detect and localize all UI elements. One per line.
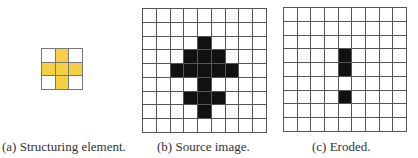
- empty-cell: [393, 118, 406, 131]
- empty-cell: [212, 37, 225, 50]
- filled-cell: [184, 64, 197, 77]
- empty-cell: [311, 36, 324, 49]
- filled-cell: [56, 76, 69, 89]
- empty-cell: [226, 23, 239, 36]
- empty-cell: [352, 63, 365, 76]
- empty-cell: [393, 104, 406, 117]
- empty-cell: [298, 22, 311, 35]
- empty-cell: [298, 91, 311, 104]
- empty-cell: [253, 78, 266, 91]
- empty-cell: [393, 77, 406, 90]
- empty-cell: [157, 9, 170, 22]
- empty-cell: [325, 49, 338, 62]
- empty-cell: [253, 9, 266, 22]
- filled-cell: [226, 64, 239, 77]
- empty-cell: [143, 50, 156, 63]
- empty-cell: [157, 23, 170, 36]
- empty-cell: [284, 77, 297, 90]
- empty-cell: [366, 77, 379, 90]
- empty-cell: [253, 105, 266, 118]
- empty-cell: [380, 22, 393, 35]
- empty-cell: [393, 22, 406, 35]
- empty-cell: [352, 49, 365, 62]
- empty-cell: [298, 8, 311, 21]
- empty-cell: [284, 22, 297, 35]
- empty-cell: [253, 50, 266, 63]
- empty-cell: [380, 36, 393, 49]
- empty-cell: [298, 104, 311, 117]
- empty-cell: [253, 23, 266, 36]
- empty-cell: [284, 91, 297, 104]
- empty-cell: [171, 37, 184, 50]
- empty-cell: [239, 64, 252, 77]
- empty-cell: [212, 119, 225, 132]
- empty-cell: [339, 22, 352, 35]
- empty-cell: [253, 92, 266, 105]
- empty-cell: [143, 9, 156, 22]
- empty-cell: [284, 36, 297, 49]
- empty-cell: [239, 50, 252, 63]
- empty-cell: [184, 23, 197, 36]
- empty-cell: [366, 104, 379, 117]
- filled-cell: [339, 49, 352, 62]
- filled-cell: [198, 92, 211, 105]
- empty-cell: [366, 118, 379, 131]
- empty-cell: [284, 49, 297, 62]
- empty-cell: [366, 91, 379, 104]
- filled-cell: [198, 78, 211, 91]
- empty-cell: [325, 118, 338, 131]
- empty-cell: [239, 105, 252, 118]
- empty-cell: [325, 104, 338, 117]
- empty-cell: [253, 37, 266, 50]
- empty-cell: [226, 50, 239, 63]
- empty-cell: [380, 8, 393, 21]
- empty-cell: [226, 37, 239, 50]
- empty-cell: [212, 9, 225, 22]
- empty-cell: [380, 118, 393, 131]
- filled-cell: [42, 63, 55, 76]
- empty-cell: [380, 63, 393, 76]
- empty-cell: [212, 23, 225, 36]
- empty-cell: [198, 119, 211, 132]
- empty-cell: [157, 78, 170, 91]
- empty-cell: [143, 64, 156, 77]
- empty-cell: [325, 22, 338, 35]
- empty-cell: [226, 78, 239, 91]
- empty-cell: [380, 77, 393, 90]
- filled-cell: [339, 63, 352, 76]
- empty-cell: [143, 37, 156, 50]
- empty-cell: [393, 63, 406, 76]
- empty-cell: [311, 104, 324, 117]
- empty-cell: [325, 8, 338, 21]
- empty-cell: [171, 50, 184, 63]
- empty-cell: [339, 118, 352, 131]
- empty-cell: [157, 119, 170, 132]
- empty-cell: [366, 8, 379, 21]
- empty-cell: [69, 76, 82, 89]
- empty-cell: [325, 77, 338, 90]
- empty-cell: [239, 23, 252, 36]
- empty-cell: [184, 105, 197, 118]
- empty-cell: [226, 9, 239, 22]
- empty-cell: [184, 119, 197, 132]
- empty-cell: [143, 105, 156, 118]
- empty-cell: [226, 92, 239, 105]
- filled-cell: [184, 50, 197, 63]
- empty-cell: [284, 118, 297, 131]
- empty-cell: [366, 22, 379, 35]
- eroded-image-grid: [283, 7, 407, 132]
- empty-cell: [311, 118, 324, 131]
- empty-cell: [171, 78, 184, 91]
- empty-cell: [298, 77, 311, 90]
- filled-cell: [212, 50, 225, 63]
- empty-cell: [352, 77, 365, 90]
- filled-cell: [198, 105, 211, 118]
- empty-cell: [198, 23, 211, 36]
- empty-cell: [239, 119, 252, 132]
- filled-cell: [198, 37, 211, 50]
- empty-cell: [366, 49, 379, 62]
- empty-cell: [239, 78, 252, 91]
- empty-cell: [253, 119, 266, 132]
- empty-cell: [366, 36, 379, 49]
- empty-cell: [339, 8, 352, 21]
